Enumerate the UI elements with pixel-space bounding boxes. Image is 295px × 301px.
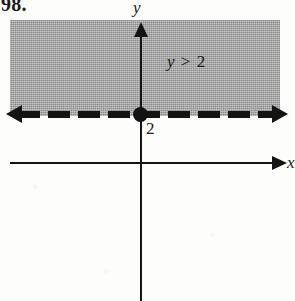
- boundary-arrow-right-icon: [272, 105, 288, 123]
- inequality-graph-figure: 98. y > 2 y x 2: [0, 0, 295, 301]
- inequality-value: 2: [197, 52, 207, 71]
- x-axis-label: x: [287, 153, 295, 173]
- x-axis: [10, 162, 278, 164]
- inequality-annotation: y > 2: [167, 52, 206, 72]
- inequality-variable: y: [167, 52, 176, 71]
- y-axis-label: y: [133, 0, 141, 18]
- y-axis: [140, 32, 142, 301]
- arrow-right-icon: [272, 156, 287, 170]
- arrow-up-icon: [134, 22, 148, 37]
- arrow-left-icon: [6, 105, 22, 123]
- inequality-operator: >: [181, 52, 192, 71]
- problem-number: 98.: [1, 0, 27, 16]
- y-intercept-label: 2: [146, 119, 155, 139]
